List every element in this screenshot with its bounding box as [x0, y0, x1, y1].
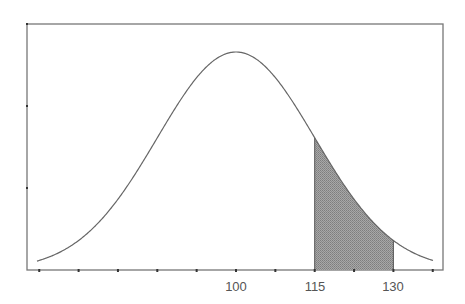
x-tick — [392, 269, 394, 272]
x-tick — [432, 269, 434, 272]
x-tick-label-130: 130 — [382, 279, 404, 294]
x-axis-labels: 100 115 130 — [225, 279, 404, 294]
x-tick — [78, 269, 80, 272]
x-tick-label-115: 115 — [305, 279, 326, 294]
y-tick — [26, 23, 28, 25]
x-tick — [235, 269, 237, 272]
x-tick — [156, 269, 158, 272]
x-tick — [353, 269, 355, 272]
x-tick — [38, 269, 40, 272]
y-tick — [26, 187, 28, 189]
x-tick — [274, 269, 276, 272]
normal-distribution-chart: 100 115 130 — [0, 0, 465, 304]
x-tick — [196, 269, 198, 272]
x-tick — [117, 269, 119, 272]
x-tick — [314, 269, 316, 272]
x-tick-label-100: 100 — [225, 279, 247, 294]
y-tick — [26, 105, 28, 107]
